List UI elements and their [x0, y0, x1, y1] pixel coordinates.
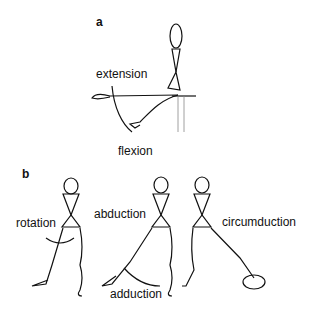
label-adduction: adduction [110, 287, 162, 301]
label-circumduction: circumduction [222, 215, 296, 229]
label-rotation: rotation [16, 216, 56, 230]
panel-label-a: a [96, 15, 103, 29]
label-flexion: flexion [118, 144, 153, 158]
leg-extended [92, 94, 178, 98]
head [170, 24, 182, 48]
figure-circumduction [182, 177, 265, 289]
label-extension: extension [96, 67, 147, 81]
motion-arrow [112, 86, 132, 132]
torso-upper [172, 49, 180, 72]
panel-label-b: b [22, 167, 29, 181]
torso-lower [168, 72, 180, 90]
figure-abduction [102, 177, 172, 296]
figure-rotation [32, 178, 82, 296]
diagram-canvas: a extension flexion b rotation abduction… [0, 0, 314, 314]
leg-flexed [130, 95, 178, 128]
label-abduction: abduction [94, 207, 146, 221]
